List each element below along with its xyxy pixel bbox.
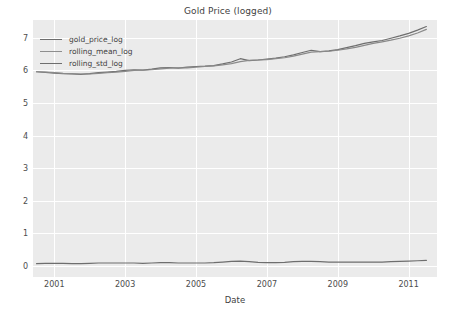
- legend-entry[interactable]: gold_price_log: [40, 33, 132, 45]
- legend-entry[interactable]: rolling_std_log: [40, 57, 132, 69]
- legend-entry[interactable]: rolling_mean_log: [40, 45, 132, 57]
- y-tick-label: 5: [5, 99, 28, 108]
- y-tick-label: 2: [5, 196, 28, 205]
- y-tick-label: 4: [5, 131, 28, 140]
- x-tick-label: 2007: [257, 280, 277, 289]
- legend-label: rolling_std_log: [69, 59, 123, 68]
- y-tick-label: 3: [5, 164, 28, 173]
- x-axis-label: Date: [33, 295, 437, 305]
- legend-swatch-line-icon: [40, 51, 62, 52]
- legend-label: gold_price_log: [69, 35, 123, 44]
- y-tick-label: 6: [5, 66, 28, 75]
- chart-legend: gold_price_logrolling_mean_logrolling_st…: [36, 31, 136, 71]
- y-tick-label: 1: [5, 229, 28, 238]
- x-tick-label: 2009: [328, 280, 348, 289]
- chart-figure: Gold Price (logged) 01234567 20012003200…: [0, 0, 456, 319]
- x-tick-label: 2003: [115, 280, 135, 289]
- x-tick-label: 2001: [44, 280, 64, 289]
- x-tick-label: 2011: [398, 280, 418, 289]
- legend-swatch-line-icon: [40, 63, 62, 64]
- x-tick-label: 2005: [186, 280, 206, 289]
- legend-swatch-line-icon: [40, 39, 62, 40]
- legend-label: rolling_mean_log: [69, 47, 132, 56]
- y-tick-label: 0: [5, 261, 28, 270]
- y-tick-label: 7: [5, 33, 28, 42]
